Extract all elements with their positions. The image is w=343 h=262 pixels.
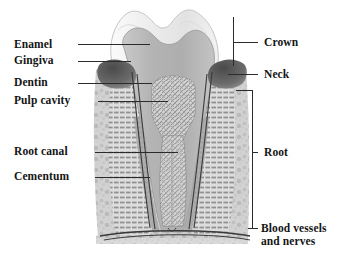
label-crown: Crown <box>264 36 298 49</box>
label-gingiva: Gingiva <box>14 54 54 67</box>
label-cementum: Cementum <box>14 170 69 183</box>
label-pulp-cavity: Pulp cavity <box>14 94 70 107</box>
label-blood-vessels-and-nerves: Blood vessels and nerves <box>261 222 327 248</box>
label-blood-vessels-line2: and nerves <box>261 235 315 247</box>
label-blood-vessels-line1: Blood vessels <box>261 222 327 234</box>
label-root: Root <box>264 146 288 159</box>
label-dentin: Dentin <box>14 76 48 89</box>
label-enamel: Enamel <box>14 38 52 51</box>
label-neck: Neck <box>264 68 289 81</box>
label-root-canal: Root canal <box>14 145 68 158</box>
tooth-anatomy-figure: Enamel Gingiva Dentin Pulp cavity Root c… <box>0 0 343 262</box>
